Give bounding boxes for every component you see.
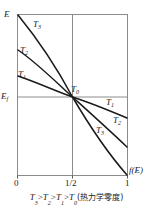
caption-term-T0: T0 bbox=[69, 192, 77, 202]
xtick-label-0: 0 bbox=[14, 179, 19, 188]
curve-label-T3-left: T3 bbox=[33, 20, 41, 29]
xtick-label-1: 1 bbox=[125, 179, 130, 188]
y-axis-label-fermi-energy: Ef bbox=[1, 92, 8, 101]
crossing-point-label-T0: T0 bbox=[71, 85, 79, 94]
caption-note-text: 热力学零度 bbox=[80, 193, 120, 202]
curve-label-T2-right: T2 bbox=[113, 116, 121, 125]
curve-label-T3-right: T3 bbox=[96, 126, 104, 135]
figure-caption: T3>T2>T1>T0(热力学零度) bbox=[0, 193, 153, 204]
xtick-label-half: 1/2 bbox=[65, 179, 77, 188]
caption-term-T2: T2 bbox=[43, 192, 51, 202]
caption-note-close: ) bbox=[120, 193, 123, 202]
y-axis-label-E: E bbox=[4, 10, 10, 19]
x-axis-label: f(E) bbox=[129, 166, 143, 175]
caption-term-T3: T3 bbox=[30, 192, 38, 202]
curve-label-T2-left: T2 bbox=[20, 46, 28, 55]
curve-label-T1-left: T1 bbox=[18, 70, 26, 79]
curve-label-T1-right: T1 bbox=[106, 98, 114, 107]
fermi-dirac-distribution-figure: E Ef T3 T2 T1 T0 T1 T2 T3 f(E) 0 1/2 1 T… bbox=[0, 0, 153, 211]
caption-term-T1: T1 bbox=[56, 192, 64, 202]
